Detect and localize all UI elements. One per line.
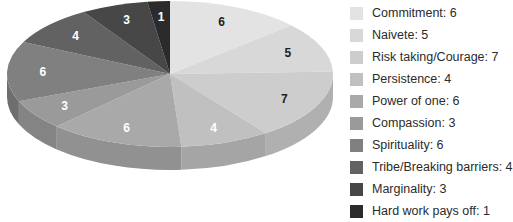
legend-item-hard-work: Hard work pays off: 1 <box>350 200 513 222</box>
pie-slice-value-label: 1 <box>158 10 165 24</box>
legend-item-persistence: Persistence: 4 <box>350 68 513 90</box>
legend-swatch <box>350 183 363 196</box>
legend-swatch <box>350 95 363 108</box>
pie-slice-value-label: 3 <box>123 13 130 27</box>
legend-label: Spirituality: 6 <box>372 138 444 152</box>
pie-slice-value-label: 6 <box>218 15 225 29</box>
legend-item-marginality: Marginality: 3 <box>350 178 513 200</box>
legend-swatch <box>350 161 363 174</box>
pie-slice-value-label: 6 <box>40 65 47 79</box>
legend-item-power-of-one: Power of one: 6 <box>350 90 513 112</box>
legend-label: Persistence: 4 <box>372 72 451 86</box>
legend-item-spirituality: Spirituality: 6 <box>350 134 513 156</box>
legend-swatch <box>350 29 363 42</box>
legend-label: Naivete: 5 <box>372 28 428 42</box>
pie-top-face <box>7 1 333 147</box>
legend-label: Tribe/Breaking barriers: 4 <box>372 160 513 174</box>
legend-item-commitment: Commitment: 6 <box>350 2 513 24</box>
legend-label: Marginality: 3 <box>372 182 446 196</box>
legend-label: Commitment: 6 <box>372 6 457 20</box>
legend-item-compassion: Compassion: 3 <box>350 112 513 134</box>
legend-swatch <box>350 139 363 152</box>
legend-item-tribe: Tribe/Breaking barriers: 4 <box>350 156 513 178</box>
pie-slice-value-label: 7 <box>281 92 288 106</box>
legend-swatch <box>350 205 363 218</box>
chart-legend: Commitment: 6 Naivete: 5 Risk taking/Cou… <box>350 2 513 222</box>
legend-item-risk-taking: Risk taking/Courage: 7 <box>350 46 513 68</box>
pie-slice-value-label: 6 <box>123 121 130 135</box>
pie-slice-value-label: 3 <box>61 99 68 113</box>
pie-chart: 6574636431 <box>0 0 340 221</box>
legend-swatch <box>350 73 363 86</box>
pie-slice-value-label: 5 <box>285 46 292 60</box>
legend-item-naivete: Naivete: 5 <box>350 24 513 46</box>
legend-label: Risk taking/Courage: 7 <box>372 50 498 64</box>
pie-slice-value-label: 4 <box>72 29 79 43</box>
legend-swatch <box>350 117 363 130</box>
legend-label: Compassion: 3 <box>372 116 455 130</box>
legend-swatch <box>350 7 363 20</box>
legend-swatch <box>350 51 363 64</box>
legend-label: Power of one: 6 <box>372 94 460 108</box>
pie-slice-value-label: 4 <box>210 121 217 135</box>
legend-label: Hard work pays off: 1 <box>372 204 490 218</box>
